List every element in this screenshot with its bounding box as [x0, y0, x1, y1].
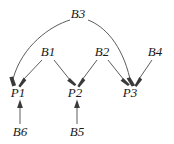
node-b3: B3 — [68, 7, 88, 20]
node-b1: B1 — [38, 45, 58, 58]
node-p2: P2 — [65, 86, 85, 99]
node-b6: B6 — [10, 125, 30, 138]
node-b4: B4 — [145, 45, 165, 58]
node-p1: P1 — [8, 86, 28, 99]
edge-b2-to-p2 — [77, 60, 97, 88]
edge-b4-to-p3 — [135, 60, 152, 87]
edge-b5-to-p2 — [74, 100, 80, 125]
edge-b1-to-p1 — [18, 60, 42, 88]
graph-diagram: B3 B1 B2 B4 P1 P2 P3 B6 B5 — [0, 0, 174, 144]
node-b2: B2 — [92, 45, 112, 58]
graph-edges-layer — [0, 0, 174, 144]
edge-b2-to-p3 — [108, 60, 130, 86]
edge-b1-to-p2 — [54, 60, 76, 86]
node-b5: B5 — [67, 125, 87, 138]
node-p3: P3 — [120, 86, 140, 99]
edge-b6-to-p1 — [17, 100, 23, 125]
